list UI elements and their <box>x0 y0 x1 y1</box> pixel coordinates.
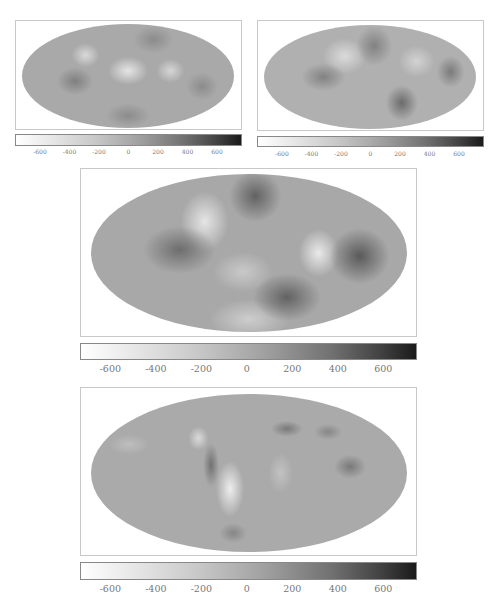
tick-label: -400 <box>305 150 318 157</box>
tick-label: 400 <box>182 148 193 155</box>
tick-label: 600 <box>374 363 392 374</box>
tick-label: 600 <box>453 150 464 157</box>
tick-label: -200 <box>191 363 212 374</box>
tick-label: -600 <box>33 148 46 155</box>
colorbar <box>15 134 242 146</box>
tick-label: -400 <box>145 583 166 594</box>
tick-label: 400 <box>424 150 435 157</box>
tick-label: 600 <box>374 583 392 594</box>
tick-label: -200 <box>92 148 105 155</box>
tick-label: 0 <box>127 148 131 155</box>
tick-label: -400 <box>63 148 76 155</box>
tick-label: 600 <box>211 148 222 155</box>
tick-label: -200 <box>334 150 347 157</box>
tick-label: -600 <box>100 363 121 374</box>
mollweide-map <box>264 25 476 129</box>
tick-label: 0 <box>369 150 373 157</box>
mollweide-map <box>22 24 234 128</box>
tick-label: 200 <box>283 363 301 374</box>
tick-label: 200 <box>283 583 301 594</box>
mollweide-map <box>91 174 407 332</box>
tick-label: -600 <box>100 583 121 594</box>
tick-label: 0 <box>244 583 250 594</box>
tick-label: 200 <box>152 148 163 155</box>
tick-label: 400 <box>329 583 347 594</box>
colorbar <box>80 343 417 360</box>
tick-label: -200 <box>191 583 212 594</box>
colorbar <box>257 136 484 147</box>
tick-label: 200 <box>394 150 405 157</box>
tick-label: -400 <box>145 363 166 374</box>
tick-label: 0 <box>244 363 250 374</box>
tick-label: 400 <box>329 363 347 374</box>
tick-label: -600 <box>275 150 288 157</box>
mollweide-map <box>91 394 407 552</box>
colorbar <box>80 562 417 580</box>
